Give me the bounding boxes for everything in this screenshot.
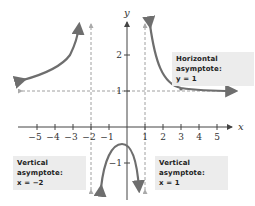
y-axis-label: y	[123, 7, 130, 18]
svg-text:5: 5	[214, 132, 220, 142]
svg-text:1: 1	[116, 86, 122, 96]
annotation-line1: Horizontal asymptote:	[176, 54, 250, 74]
annotation-vertical-asymptote-left: Vertical asymptote: x = −2	[13, 156, 86, 190]
curve-left-branch	[23, 26, 79, 80]
svg-text:−2: −2	[82, 132, 95, 142]
annotation-line2: x = −2	[17, 178, 82, 188]
annotation-vertical-asymptote-right: Vertical asymptote: x = 1	[155, 156, 228, 190]
svg-text:−1: −1	[109, 158, 122, 168]
annotation-line1: Vertical asymptote:	[17, 158, 82, 178]
svg-text:−1: −1	[100, 132, 113, 142]
annotation-horizontal-asymptote: Horizontal asymptote: y = 1	[172, 52, 254, 86]
svg-text:−4: −4	[46, 132, 60, 142]
curve-point	[179, 87, 182, 90]
svg-text:2: 2	[160, 132, 166, 142]
svg-text:2: 2	[116, 50, 122, 60]
svg-text:−5: −5	[28, 132, 42, 142]
annotation-line2: y = 1	[176, 74, 250, 84]
svg-text:1: 1	[142, 132, 148, 142]
x-tick-labels: −5 −4 −3 −2 −1 1 2 3 4 5	[28, 132, 220, 142]
svg-text:4: 4	[196, 132, 202, 142]
x-axis-label: x	[238, 121, 244, 132]
annotation-line1: Vertical asymptote:	[159, 158, 224, 178]
svg-text:−3: −3	[64, 132, 78, 142]
svg-text:3: 3	[178, 132, 184, 142]
annotation-line2: x = 1	[159, 178, 224, 188]
